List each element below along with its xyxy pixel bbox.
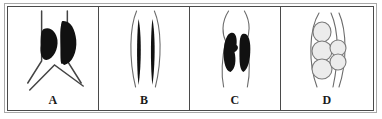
- panel-a-artwork: [8, 7, 98, 91]
- panel-d-artwork: [281, 7, 373, 91]
- figure-root: A B: [0, 0, 382, 119]
- panel-d-vesicle-right-bottom: [330, 54, 346, 70]
- panel-a-left-line: [28, 11, 42, 83]
- panel-b-spindle-left: [137, 19, 141, 85]
- panel-d-vesicle-left-middle: [312, 41, 332, 61]
- panel-c-label: C: [190, 91, 280, 109]
- panel-a-dark-mass-left: [40, 28, 57, 60]
- panel-a-chevron: [30, 65, 83, 90]
- panel-b-label: B: [99, 91, 189, 109]
- panel-row: A B: [8, 7, 373, 110]
- panel-b-right-curve: [154, 11, 160, 87]
- panel-b: B: [99, 7, 190, 110]
- panel-b-left-curve: [131, 11, 137, 87]
- panel-d: D: [281, 7, 373, 110]
- panel-c-dark-mass-right: [239, 34, 250, 72]
- panel-d-label: D: [281, 91, 373, 109]
- panel-b-spindle-right: [151, 19, 155, 85]
- panel-a: A: [8, 7, 99, 110]
- panel-d-vesicle-left-bottom: [312, 59, 332, 79]
- panel-a-dark-mass-right: [61, 21, 76, 65]
- panel-b-artwork: [99, 7, 189, 91]
- panel-c-artwork: [190, 7, 280, 91]
- panel-d-vesicle-left-top: [313, 22, 331, 42]
- panel-a-label: A: [8, 91, 98, 109]
- panel-c: C: [190, 7, 281, 110]
- panel-c-dark-mass-left: [224, 33, 238, 72]
